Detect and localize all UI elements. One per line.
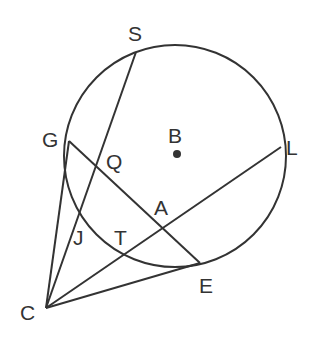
label-e: E bbox=[199, 274, 213, 297]
segment-cg bbox=[46, 141, 69, 308]
label-g: G bbox=[42, 128, 58, 151]
label-s: S bbox=[128, 22, 142, 45]
center-point-b bbox=[173, 150, 181, 158]
label-l: L bbox=[286, 136, 298, 159]
segment-ce bbox=[46, 263, 200, 308]
geometry-diagram: S G Q B L A J T E C bbox=[0, 0, 318, 346]
segment-ge bbox=[69, 141, 200, 263]
label-b: B bbox=[168, 124, 182, 147]
label-c: C bbox=[20, 301, 35, 324]
segment-cs bbox=[46, 52, 136, 308]
label-a: A bbox=[154, 196, 168, 219]
label-q: Q bbox=[106, 150, 122, 173]
label-t: T bbox=[114, 226, 127, 249]
label-j: J bbox=[73, 226, 84, 249]
